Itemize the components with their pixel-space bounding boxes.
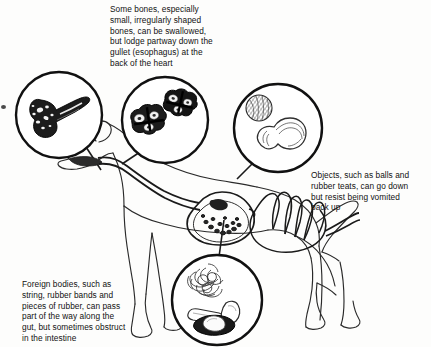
caption-foreign-bodies: Foreign bodies, such as string, rubber b… (22, 279, 182, 344)
callout-ball-and-teat (234, 84, 322, 172)
esophagus-lower (99, 164, 200, 210)
rubber-piece-dome (203, 316, 225, 331)
callout-string-and-rubber (172, 255, 262, 345)
figure-canvas: Some bones, especially small, irregularl… (0, 0, 431, 347)
leader-line-stomach (237, 164, 252, 179)
esophagus-upper (98, 157, 199, 203)
caption-bones: Some bones, especially small, irregularl… (110, 4, 260, 69)
caption-objects: Objects, such as balls and rubber teats,… (311, 170, 431, 213)
callout-bone-in-mouth (16, 72, 102, 158)
callout-bones-in-esophagus (122, 77, 208, 163)
mouth-cavity (69, 157, 102, 166)
